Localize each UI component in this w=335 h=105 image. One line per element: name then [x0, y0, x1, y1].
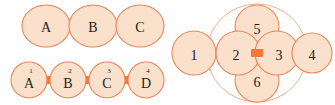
- node-label: 6: [254, 75, 261, 90]
- node-d-bottom[interactable]: 4 D: [128, 62, 164, 98]
- node-label: 3: [276, 48, 283, 63]
- node-label: 2: [233, 48, 240, 63]
- panel-ordered-chain-abcd: 1 A 2 B 3 C 4 D: [11, 62, 164, 98]
- node-label: A: [41, 20, 52, 35]
- node-index-label: 2: [68, 67, 72, 75]
- node-4[interactable]: 4: [292, 33, 332, 73]
- node-1[interactable]: 1: [172, 31, 216, 75]
- panel-directed-chain-abc: A B C: [22, 5, 164, 47]
- node-b-top[interactable]: B: [69, 5, 117, 47]
- node-c-bottom[interactable]: 3 C: [89, 62, 125, 98]
- node-a-top[interactable]: A: [22, 5, 70, 47]
- node-label: B: [88, 20, 97, 35]
- node-label: D: [141, 76, 151, 91]
- node-label: C: [102, 76, 111, 91]
- node-label: 5: [254, 22, 261, 37]
- node-label: B: [63, 76, 72, 91]
- node-c-top[interactable]: C: [116, 5, 164, 47]
- link-2-3: [251, 49, 263, 57]
- node-label: 1: [191, 48, 198, 63]
- panel-numbered-cluster-graph: 1 5 6 2 3 4: [172, 4, 332, 102]
- node-index-label: 1: [29, 67, 33, 75]
- node-b-bottom[interactable]: 2 B: [50, 62, 86, 98]
- node-label: C: [135, 20, 144, 35]
- node-a-bottom[interactable]: 1 A: [11, 62, 47, 98]
- diagram-canvas: A B C 1 A 2 B 3 C: [0, 0, 335, 105]
- node-index-label: 4: [146, 67, 150, 75]
- node-label: A: [24, 76, 35, 91]
- node-index-label: 3: [107, 67, 111, 75]
- node-label: 4: [309, 48, 316, 63]
